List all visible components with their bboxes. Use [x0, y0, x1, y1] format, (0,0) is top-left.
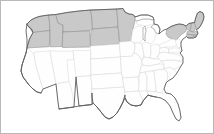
state-pennsylvania — [159, 39, 178, 48]
state-mississippi — [139, 72, 147, 91]
state-missouri — [121, 53, 143, 78]
state-virginia — [158, 52, 183, 61]
state-washington — [27, 15, 50, 33]
state-florida — [147, 91, 181, 121]
state-south-dakota — [90, 27, 119, 46]
state-maine — [195, 12, 205, 30]
state-wyoming — [63, 31, 91, 48]
state-north-dakota — [91, 9, 118, 29]
state-maryland — [169, 48, 180, 53]
state-georgia — [154, 69, 168, 93]
state-texas — [92, 87, 125, 119]
state-kansas — [91, 57, 122, 75]
state-oklahoma — [91, 73, 124, 89]
state-new-jersey — [176, 39, 181, 48]
state-arkansas — [123, 77, 139, 92]
state-new-york — [166, 24, 187, 40]
state-louisiana — [125, 91, 143, 106]
state-colorado — [73, 51, 91, 77]
map-svg — [1, 1, 214, 134]
state-nebraska — [91, 44, 121, 59]
us-choropleth-map — [0, 0, 214, 134]
